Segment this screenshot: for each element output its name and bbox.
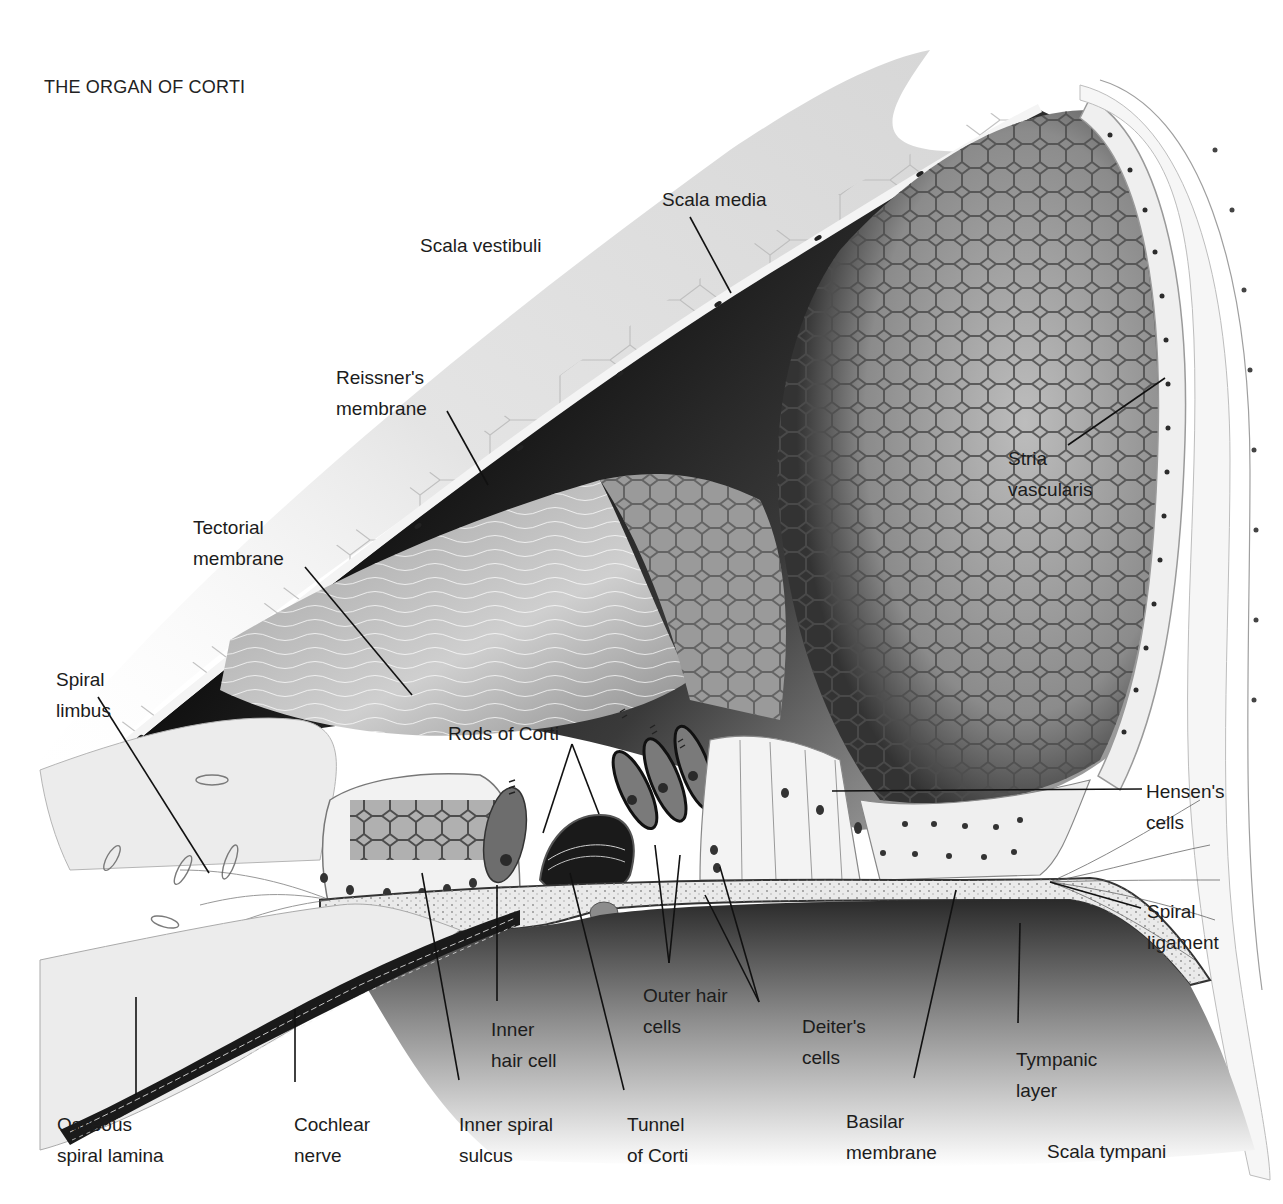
label-text: cells [1146,807,1225,838]
label-text: Basilar [846,1106,937,1137]
label-text: Spiral [1147,896,1219,927]
label-text: Inner [491,1014,556,1045]
label-text: Spiral [56,664,111,695]
label-osseous-spiral-lamina: Osseous spiral lamina [57,1109,164,1171]
label-text: of Corti [627,1140,688,1171]
label-text: cells [643,1011,727,1042]
label-text: Stria [1008,443,1092,474]
label-scala-media: Scala media [662,184,767,215]
label-text: Osseous [57,1109,164,1140]
label-hensens-cells: Hensen's cells [1146,776,1225,838]
label-text: hair cell [491,1045,556,1076]
label-text: Scala media [662,184,767,215]
label-text: limbus [56,695,111,726]
label-text: Rods of Corti [448,718,559,749]
label-basilar-membrane: Basilar membrane [846,1106,937,1168]
label-text: Deiter's [802,1011,866,1042]
label-text: Scala vestibuli [420,230,541,261]
label-spiral-ligament: Spiral ligament [1147,896,1219,958]
label-deiters-cells: Deiter's cells [802,1011,866,1073]
label-text: sulcus [459,1140,553,1171]
label-tectorial-membrane: Tectorial membrane [193,512,284,574]
figure-title: THE ORGAN OF CORTI [44,77,245,98]
label-inner-hair-cell: Inner hair cell [491,1014,556,1076]
label-text: ligament [1147,927,1219,958]
label-tunnel-of-corti: Tunnel of Corti [627,1109,688,1171]
label-tympanic-layer: Tympanic layer [1016,1044,1097,1106]
label-text: membrane [846,1137,937,1168]
label-text: Tectorial [193,512,284,543]
label-scala-vestibuli: Scala vestibuli [420,230,541,261]
label-reissners-membrane: Reissner's membrane [336,362,427,424]
label-text: Hensen's [1146,776,1225,807]
label-text: vascularis [1008,474,1092,505]
label-outer-hair-cells: Outer hair cells [643,980,727,1042]
label-rods-of-corti: Rods of Corti [448,718,559,749]
label-cochlear-nerve: Cochlear nerve [294,1109,370,1171]
label-inner-spiral-sulcus: Inner spiral sulcus [459,1109,553,1171]
label-text: Tunnel [627,1109,688,1140]
label-text: membrane [193,543,284,574]
label-text: Reissner's [336,362,427,393]
label-text: nerve [294,1140,370,1171]
anatomical-illustration [0,0,1283,1204]
label-spiral-limbus: Spiral limbus [56,664,111,726]
label-text: spiral lamina [57,1140,164,1171]
label-text: Scala tympani [1047,1136,1166,1167]
label-text: cells [802,1042,866,1073]
label-stria-vascularis: Stria vascularis [1008,443,1092,505]
label-text: layer [1016,1075,1097,1106]
organ-of-corti-figure: THE ORGAN OF CORTI Scala vestibuli Scala… [0,0,1283,1204]
label-text: Cochlear [294,1109,370,1140]
label-scala-tympani: Scala tympani [1047,1136,1166,1167]
label-text: membrane [336,393,427,424]
label-text: Outer hair [643,980,727,1011]
hensens-cells [700,736,860,880]
label-text: Inner spiral [459,1109,553,1140]
label-text: Tympanic [1016,1044,1097,1075]
